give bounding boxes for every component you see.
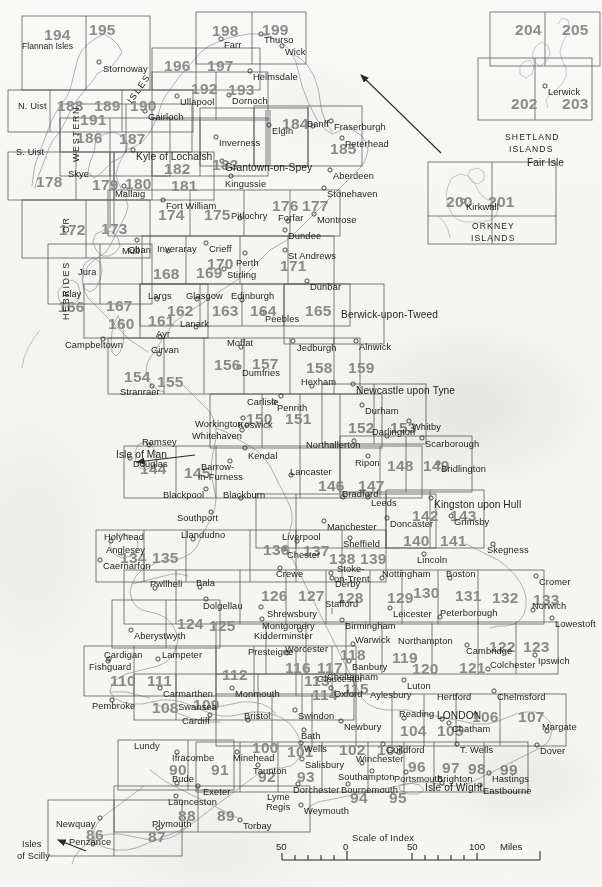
sheet-number-120: 120 bbox=[412, 661, 439, 677]
town-label-reading: Reading bbox=[399, 710, 434, 719]
sheet-number-158: 158 bbox=[306, 360, 333, 376]
town-label-doncaster: Doncaster bbox=[390, 520, 433, 529]
town-label-stranraer: Stranraer bbox=[120, 388, 160, 397]
town-label-gloucester: Gloucester bbox=[317, 675, 363, 684]
region-label-anglesey: Anglesey bbox=[106, 546, 145, 555]
region-label-islands: ISLANDS bbox=[471, 234, 515, 243]
region-label-isle-of-wight: Isle of Wight bbox=[425, 783, 482, 793]
region-label-islands: ISLANDS bbox=[509, 145, 553, 154]
sheet-number-169: 169 bbox=[196, 265, 223, 281]
sheet-number-165: 165 bbox=[305, 303, 332, 319]
town-label-berwick-upon-tweed: Berwick-upon-Tweed bbox=[341, 310, 438, 320]
town-label-cromer: Cromer bbox=[539, 578, 571, 587]
sheet-number-154: 154 bbox=[124, 369, 151, 385]
town-label-chester: Chester bbox=[287, 551, 320, 560]
town-label-dumfries: Dumfries bbox=[242, 369, 280, 378]
scale-tick-50-right: 50 bbox=[407, 842, 418, 852]
town-label-cambridge: Cambridge bbox=[466, 647, 512, 656]
scale-tick-0: 0 bbox=[343, 842, 348, 852]
town-label-stoke: Stoke- bbox=[337, 565, 364, 574]
town-label-peebles: Peebles bbox=[265, 315, 299, 324]
town-label-kingussie: Kingussie bbox=[225, 180, 266, 189]
town-label-chelmsford: Chelmsford bbox=[497, 693, 546, 702]
town-label-grimsby: Grimsby bbox=[454, 518, 489, 527]
town-label-newcastle-upon-tyne: Newcastle upon Tyne bbox=[356, 386, 455, 396]
region-label-shetland: SHETLAND bbox=[505, 133, 560, 142]
sheet-number-163: 163 bbox=[212, 303, 239, 319]
town-label-in-furness: in-Furness bbox=[198, 473, 243, 482]
town-label-girvan: Girvan bbox=[151, 346, 179, 355]
town-label-dunbar: Dunbar bbox=[310, 283, 341, 292]
town-label-birmingham: Birmingham bbox=[345, 622, 396, 631]
town-label-wells: Wells bbox=[304, 745, 327, 754]
town-label-taunton: Taunton bbox=[253, 767, 287, 776]
sheet-number-112: 112 bbox=[222, 667, 248, 683]
town-label-fraserburgh: Fraserburgh bbox=[334, 123, 386, 132]
sheet-number-187: 187 bbox=[119, 131, 146, 147]
town-label-inveraray: Inveraray bbox=[157, 245, 197, 254]
region-label-western: WESTERN bbox=[72, 106, 81, 162]
sheet-number-167: 167 bbox=[106, 298, 133, 314]
sheet-number-204: 204 bbox=[515, 22, 542, 38]
town-label-montgomery: Montgomery bbox=[262, 622, 315, 631]
sheet-number-121: 121 bbox=[459, 660, 486, 676]
sheet-number-96: 96 bbox=[408, 759, 426, 775]
town-label-ramsey: Ramsey bbox=[142, 438, 177, 447]
sheet-number-131: 131 bbox=[455, 588, 482, 604]
sheet-number-135: 135 bbox=[152, 550, 179, 566]
town-label-kingston-upon-hull: Kingston upon Hull bbox=[434, 500, 521, 510]
town-label-gairloch: Gairloch bbox=[148, 113, 183, 122]
sheet-number-152: 152 bbox=[348, 420, 375, 436]
coastline-group bbox=[22, 18, 570, 864]
sheet-number-146: 146 bbox=[318, 478, 345, 494]
town-label-dornoch: Dornoch bbox=[232, 97, 268, 106]
town-label-aylesbury: Aylesbury bbox=[370, 691, 412, 700]
region-label-fair-isle: Fair Isle bbox=[527, 158, 564, 168]
town-label-colchester: Colchester bbox=[490, 661, 535, 670]
town-label-stirling: Stirling bbox=[227, 271, 256, 280]
town-label-lyme: Lyme bbox=[267, 793, 290, 802]
town-label-pwllheli: Pwllheli bbox=[150, 580, 182, 589]
town-label-dorchester: Dorchester bbox=[293, 786, 339, 795]
town-label-sheffield: Sheffield bbox=[343, 540, 380, 549]
town-label-mallaig: Mallaig bbox=[115, 190, 145, 199]
town-label-peterborough: Peterborough bbox=[440, 609, 498, 618]
town-label-keswick: Keswick bbox=[238, 421, 273, 430]
town-label-southampton: Southampton bbox=[338, 773, 394, 782]
region-label-isle-of-man: Isle of Man bbox=[116, 450, 167, 460]
town-label-fishguard: Fishguard bbox=[89, 663, 131, 672]
sheet-number-177: 177 bbox=[302, 198, 329, 214]
sheet-number-156: 156 bbox=[214, 357, 241, 373]
town-label-alnwick: Alnwick bbox=[359, 343, 391, 352]
sheet-number-130: 130 bbox=[413, 585, 440, 601]
town-label-monmouth: Monmouth bbox=[235, 690, 280, 699]
town-label-caernarfon: Caernarfon bbox=[103, 562, 151, 571]
town-label-northallerton: Northallerton bbox=[306, 441, 361, 450]
town-label-launceston: Launceston bbox=[168, 798, 217, 807]
region-label-s-uist: S. Uist bbox=[16, 148, 44, 157]
sheet-number-91: 91 bbox=[211, 762, 229, 778]
town-label-presteigne: Presteigne bbox=[248, 648, 293, 657]
town-label-barrow: Barrow- bbox=[201, 463, 234, 472]
sheet-number-162: 162 bbox=[167, 303, 194, 319]
town-label-swansea: Swansea bbox=[178, 703, 217, 712]
town-label-workington: Workington bbox=[195, 420, 243, 429]
town-label-bude: Bude bbox=[172, 775, 194, 784]
town-label-minehead: Minehead bbox=[233, 754, 275, 763]
town-label-inverness: Inverness bbox=[219, 139, 260, 148]
town-label-st-andrews: St Andrews bbox=[288, 252, 336, 261]
town-label-kendal: Kendal bbox=[248, 452, 278, 461]
sheet-number-108: 108 bbox=[152, 700, 179, 716]
town-label-pembroke: Pembroke bbox=[92, 702, 135, 711]
town-label-newbury: Newbury bbox=[344, 723, 381, 732]
sheet-number-176: 176 bbox=[272, 198, 299, 214]
sheet-number-124: 124 bbox=[177, 616, 204, 632]
town-label-t-wells: T. Wells bbox=[460, 746, 493, 755]
town-label-aberdeen: Aberdeen bbox=[333, 172, 374, 181]
town-label-ullapool: Ullapool bbox=[180, 98, 214, 107]
sheet-number-136: 136 bbox=[263, 542, 290, 558]
town-label-pitlochry: Pitlochry bbox=[231, 212, 268, 221]
town-label-chatham: Chatham bbox=[452, 725, 490, 734]
sheet-number-197: 197 bbox=[207, 58, 234, 74]
town-label-whitby: Whitby bbox=[412, 423, 441, 432]
